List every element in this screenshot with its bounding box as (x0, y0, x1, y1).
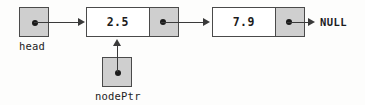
node-2-data-cell: 7.9 (213, 8, 275, 36)
null-terminator-label: NULL (320, 16, 347, 28)
nodeptr-to-node1-arrowhead (113, 39, 121, 46)
node1-to-node2-line (161, 22, 208, 24)
linked-list-diagram: head 2.5 7.9 NULL nodePtr (0, 0, 365, 105)
nodeptr-label: nodePtr (95, 90, 141, 102)
node1-to-node2-arrowhead (203, 18, 210, 26)
head-to-node1-arrowhead (78, 18, 85, 26)
node2-to-null-arrowhead (308, 18, 315, 26)
node-1-data-cell: 2.5 (87, 8, 149, 36)
head-to-node1-line (34, 22, 83, 24)
nodeptr-to-node1-line (117, 45, 119, 72)
head-label: head (19, 40, 45, 52)
